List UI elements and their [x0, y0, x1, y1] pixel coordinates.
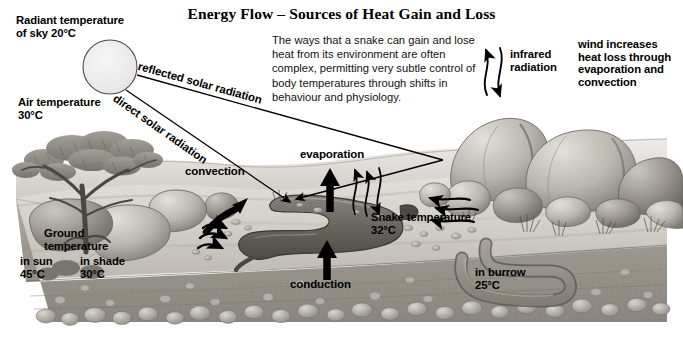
label-wind-increases-heat-loss: wind increases heat loss through evapora… — [578, 38, 671, 89]
label-ground-in-sun: in sun 45°C — [20, 255, 53, 280]
label-in-burrow: in burrow 25°C — [475, 266, 526, 291]
description-paragraph: The ways that a snake can gain and lose … — [272, 33, 487, 104]
label-evaporation: evaporation — [300, 148, 364, 161]
label-ground-in-shade: in shade 30°C — [80, 255, 125, 280]
diagram-canvas: Energy Flow – Sources of Heat Gain and L… — [0, 0, 683, 343]
label-conduction: conduction — [290, 278, 351, 291]
label-radiant-sky-temperature: Radiant temperature of sky 20°C — [16, 14, 124, 39]
label-ground-temperature: Ground temperature — [44, 227, 108, 252]
label-snake-temperature: Snake temperature 32°C — [371, 211, 471, 236]
label-air-temperature: Air temperature 30°C — [18, 96, 101, 121]
label-convection: convection — [185, 165, 245, 178]
label-infrared-radiation: infrared radiation — [510, 48, 557, 73]
sun-icon — [83, 40, 137, 94]
